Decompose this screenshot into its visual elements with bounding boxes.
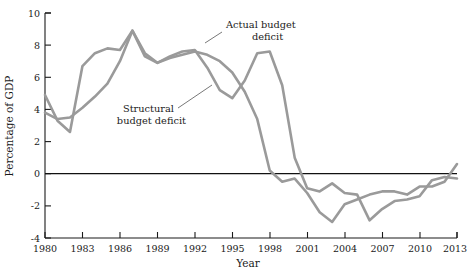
x-tick-label: 1998 — [258, 243, 282, 254]
y-tick-label: 0 — [34, 168, 40, 179]
x-tick-label: 2001 — [295, 243, 319, 254]
y-axis-title: Percentage of GDP — [3, 76, 15, 177]
x-tick-label: 2007 — [370, 243, 394, 254]
y-tick-label: 8 — [34, 40, 40, 51]
x-tick-label: 1980 — [33, 243, 57, 254]
annotation-leader-line-structural — [178, 85, 212, 108]
x-tick-label: 1983 — [70, 243, 94, 254]
y-tick-group — [45, 13, 51, 238]
annotation-structural-line2: budget deficit — [117, 115, 186, 126]
x-tick-group — [45, 232, 457, 238]
chart-svg: 10 8 6 4 2 0 -2 -4 1980 1983 1986 1989 1… — [0, 0, 473, 270]
y-tick-label: 4 — [34, 104, 40, 115]
x-axis-title: Year — [235, 257, 260, 269]
x-tick-label: 1992 — [183, 243, 207, 254]
x-tick-label: 1995 — [220, 243, 244, 254]
y-tick-label: 6 — [34, 72, 40, 83]
chart-figure: 10 8 6 4 2 0 -2 -4 1980 1983 1986 1989 1… — [0, 0, 473, 270]
y-tick-label: -2 — [31, 200, 40, 211]
annotation-actual-line2: deficit — [252, 31, 283, 42]
x-tick-label: 2010 — [408, 243, 432, 254]
y-tick-label: 10 — [28, 8, 40, 19]
annotation-structural-line1: Structural — [123, 103, 174, 114]
series-line-structural-budget-deficit — [45, 31, 457, 222]
y-tick-label: -4 — [31, 233, 40, 244]
x-tick-label: 1989 — [145, 243, 169, 254]
x-tick-label: 1986 — [108, 243, 132, 254]
y-tick-label: 2 — [34, 136, 40, 147]
x-tick-label: 2013 — [443, 243, 467, 254]
annotation-actual-line1: Actual budget — [225, 19, 296, 30]
annotation-leader-line-actual — [205, 32, 222, 43]
x-tick-label: 2004 — [333, 243, 357, 254]
